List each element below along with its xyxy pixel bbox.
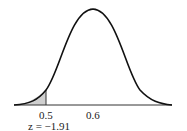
z-score-label: z = −1.91 — [28, 120, 70, 131]
tick-label-mean: 0.6 — [86, 109, 100, 121]
bell-curve — [14, 9, 172, 105]
